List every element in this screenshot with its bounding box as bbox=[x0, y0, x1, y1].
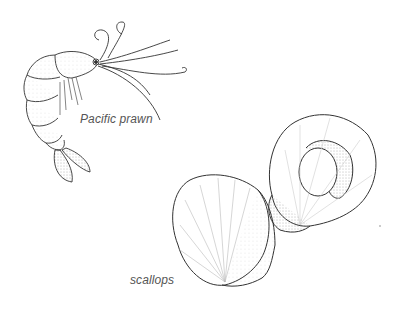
seafood-illustration bbox=[0, 0, 400, 309]
scallop-left-drawing bbox=[173, 175, 275, 286]
scallop-right-drawing bbox=[269, 115, 376, 232]
prawn-drawing bbox=[24, 22, 186, 182]
prawn-caption: Pacific prawn bbox=[80, 112, 153, 126]
scallops-caption: scallops bbox=[130, 273, 174, 287]
